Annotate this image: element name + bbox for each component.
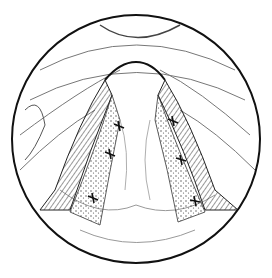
illustration-canvas — [0, 0, 272, 278]
circular-surgical-illustration — [0, 0, 272, 278]
left-fold — [25, 105, 45, 160]
interior-drawing — [20, 25, 255, 243]
flap-contour — [120, 120, 150, 200]
circular-frame — [12, 15, 260, 263]
flap-apex — [105, 62, 165, 80]
